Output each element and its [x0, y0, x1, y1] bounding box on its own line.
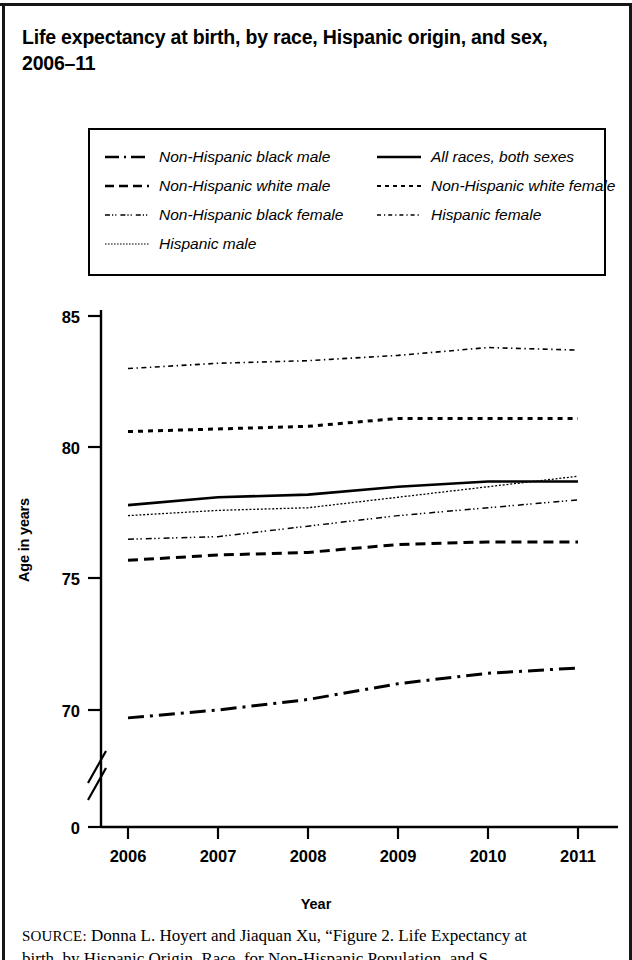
- series-line-all-races-both-sexes: [128, 481, 578, 505]
- source-kicker: SOURCE:: [22, 928, 87, 944]
- legend-column-left: Non-Hispanic black male Non-Hispanic whi…: [104, 142, 364, 258]
- legend-label: Non-Hispanic white female: [431, 177, 615, 195]
- x-tick-label-2006: 2006: [110, 847, 147, 865]
- y-tick-label-70: 70: [62, 702, 80, 720]
- legend-item-hispanic-female: Hispanic female: [376, 200, 601, 229]
- legend-item-all-races-both-sexes: All races, both sexes: [376, 142, 601, 171]
- y-tick-label-85: 85: [62, 308, 80, 326]
- series-line-non-hispanic-black-male: [128, 668, 578, 718]
- x-tick-label-2009: 2009: [380, 847, 417, 865]
- line-chart-svg: 85 80 75 70 0 2006 2007 2008 2009 2010 2…: [0, 286, 632, 866]
- y-axis-title: Age in years: [16, 470, 32, 610]
- x-axis-title: Year: [0, 896, 632, 912]
- legend-item-non-hispanic-white-female: Non-Hispanic white female: [376, 171, 601, 200]
- legend-label: Non-Hispanic black male: [159, 148, 330, 166]
- series-line-non-hispanic-black-female: [128, 500, 578, 539]
- data-series-layer: [128, 348, 578, 718]
- line-sample-fine-dotted-icon: [104, 237, 150, 251]
- x-axis-ticks: [128, 827, 578, 839]
- y-tick-label-0: 0: [71, 819, 80, 837]
- x-tick-label-2007: 2007: [200, 847, 237, 865]
- series-line-non-hispanic-white-female: [128, 418, 578, 431]
- page-edge-rule-top: [0, 3, 632, 6]
- legend-item-non-hispanic-black-female: Non-Hispanic black female: [104, 200, 364, 229]
- line-sample-dashed-icon: [104, 179, 150, 193]
- legend-label: All races, both sexes: [431, 148, 574, 166]
- chart-title: Life expectancy at birth, by race, Hispa…: [22, 24, 582, 76]
- line-sample-dash-dot-dot-fine-icon: [104, 208, 150, 222]
- legend-label: Non-Hispanic black female: [159, 206, 343, 224]
- legend-item-non-hispanic-black-male: Non-Hispanic black male: [104, 142, 364, 171]
- line-sample-solid-icon: [376, 150, 422, 164]
- x-tick-label-2008: 2008: [290, 847, 327, 865]
- legend-label: Hispanic male: [159, 235, 256, 253]
- x-tick-label-2011: 2011: [560, 847, 596, 865]
- x-tick-label-2010: 2010: [470, 847, 507, 865]
- y-tick-label-80: 80: [62, 439, 80, 457]
- y-tick-label-75: 75: [62, 570, 80, 588]
- line-sample-fine-dash-dot-icon: [376, 208, 422, 222]
- line-sample-dash-dot-icon: [104, 150, 150, 164]
- figure-page: Life expectancy at birth, by race, Hispa…: [0, 0, 632, 960]
- chart-legend: Non-Hispanic black male Non-Hispanic whi…: [88, 128, 606, 276]
- y-axis-ticks: [88, 316, 101, 827]
- series-line-non-hispanic-white-male: [128, 542, 578, 560]
- legend-label: Hispanic female: [431, 206, 541, 224]
- series-line-hispanic-female: [128, 348, 578, 369]
- source-note: SOURCE: Donna L. Hoyert and Jiaquan Xu, …: [22, 925, 622, 947]
- plot-area: 85 80 75 70 0 2006 2007 2008 2009 2010 2…: [0, 286, 632, 866]
- legend-column-right: All races, both sexes Non-Hispanic white…: [376, 142, 601, 229]
- line-sample-dotted-icon: [376, 179, 422, 193]
- legend-item-hispanic-male: Hispanic male: [104, 229, 364, 258]
- legend-item-non-hispanic-white-male: Non-Hispanic white male: [104, 171, 364, 200]
- y-axis-break-icon: [88, 751, 106, 800]
- source-text-line-2: birth, by Hispanic Origin, Race, for Non…: [22, 948, 622, 960]
- legend-label: Non-Hispanic white male: [159, 177, 330, 195]
- source-text-line-1: Donna L. Hoyert and Jiaquan Xu, “Figure …: [87, 926, 527, 945]
